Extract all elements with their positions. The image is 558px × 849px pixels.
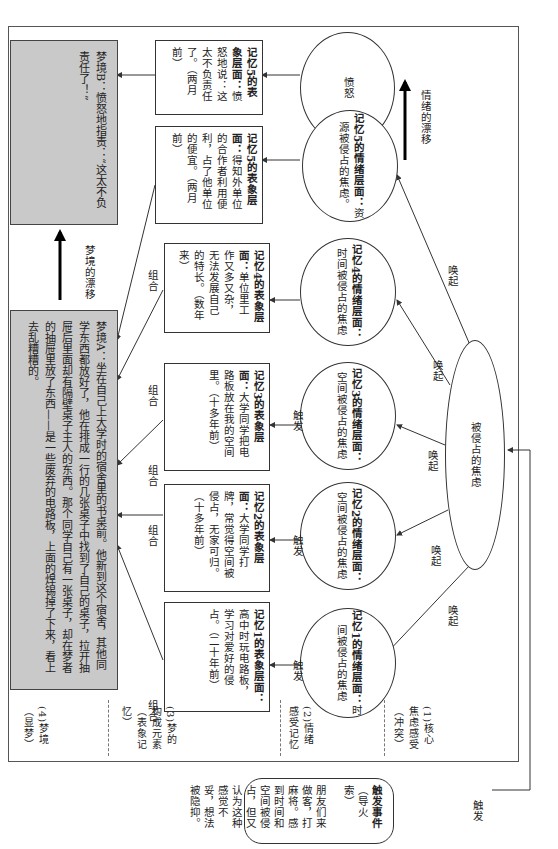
combine-label: 组合 — [145, 465, 160, 487]
memory-5-emotion-ellipse: 记忆5的情绪层面：资源被侵占的焦虑。 — [302, 110, 398, 222]
dream-a-box: 梦境A：坐在自己上大学时的宿舍里的书桌前。他新到这个宿舍，其他同学东西都放好了，… — [10, 310, 118, 690]
memory-2-surface-box: 记忆2的表象层面：大学同学打牌，常觉得空间被侵占，无家可归。（十多年前） — [164, 484, 270, 592]
combine-label: 组合 — [145, 385, 160, 407]
memory-4-emotion-ellipse: 记忆4的情绪层面：时间被侵占的焦虑 — [300, 238, 396, 346]
memory-5-surface-b-box: 记忆5的表象层面：愤怒地说：这太不负责任了。（两月前） — [155, 40, 263, 115]
trigger-event-box: 触发事件 （导火索） 朋友们来做客，打麻将。感到时间和空间被侵占，但又认为这种感… — [244, 778, 394, 844]
layer-divider — [280, 700, 281, 756]
memory-2-emotion-ellipse: 记忆2的情绪层面：空间被侵占的焦虑 — [300, 482, 396, 590]
combine-label: 组合 — [145, 270, 160, 292]
trigger-label: 触发 — [290, 660, 305, 682]
combine-label: 组合 — [145, 525, 160, 547]
dream-drift-label: 梦境的漂移 — [82, 245, 97, 300]
dream-a-text: 梦境A：坐在自己上大学时的宿舍里的书桌前。他新到这个宿舍，其他同学东西都放好了，… — [26, 321, 107, 673]
trigger-label: 触发 — [290, 410, 305, 432]
evoke-label: 唤起 — [445, 605, 460, 627]
trigger-event-subtitle: （导火索） — [342, 785, 368, 818]
dream-b-box: 梦境B：愤怒地指责：“这太不负责任了！” — [10, 40, 118, 225]
layer-label-2: (2)情绪感受记忆 — [285, 706, 315, 756]
memory-1-surface-box: 记忆1的表象层面：高中时玩电路板，学习对爱好的侵占。（二十年前） — [164, 602, 270, 712]
core-anxiety-ellipse: 被侵占的焦虑 — [445, 340, 505, 570]
evoke-label: 唤起 — [425, 450, 440, 472]
evoke-label: 唤起 — [428, 545, 443, 567]
emotion-drift-label: 情绪的漂移 — [418, 90, 433, 145]
memory-3-surface-box: 记忆3的表象层面：大学同学把电路板放在我的空间里。（十多年前） — [164, 363, 270, 471]
memory-3-emotion-ellipse: 记忆3的情绪层面：空间被侵占的焦虑 — [300, 362, 396, 470]
trigger-label: 触发 — [290, 535, 305, 557]
memory-1-emotion-ellipse: 记忆1的情绪层面：时间被侵占的焦虑 — [300, 608, 396, 718]
dream-b-text: 梦境B：愤怒地指责：“这太不负责任了！” — [77, 51, 107, 208]
memory-4-surface-box: 记忆4的表象层面：单位里工作又多又杂，无法发展自己的特长。（数年来） — [164, 243, 270, 333]
evoke-label: 唤起 — [430, 360, 445, 382]
layer-label-1: (1)核心焦虑感受（冲突） — [390, 706, 435, 756]
layer-label-4: (4)梦境（显梦） — [20, 706, 50, 756]
memory-5-surface-box: 记忆5的表象层面：得知外单位的合作者利用便利，占了他单位的便宜。（两月前） — [155, 126, 263, 224]
evoke-label: 唤起 — [445, 265, 460, 287]
layer-divider — [108, 700, 109, 756]
trigger-event-body: 朋友们来做客，打麻将。感到时间和空间被侵占，但又认为这种感觉不妥，想法被隐抑。 — [188, 785, 326, 829]
trigger-label: 触发 — [470, 800, 485, 822]
trigger-event-title: 触发事件 — [370, 785, 382, 829]
layer-label-3: (3)梦的构成元素（表象记忆） — [118, 706, 178, 756]
layer-divider — [384, 700, 385, 756]
